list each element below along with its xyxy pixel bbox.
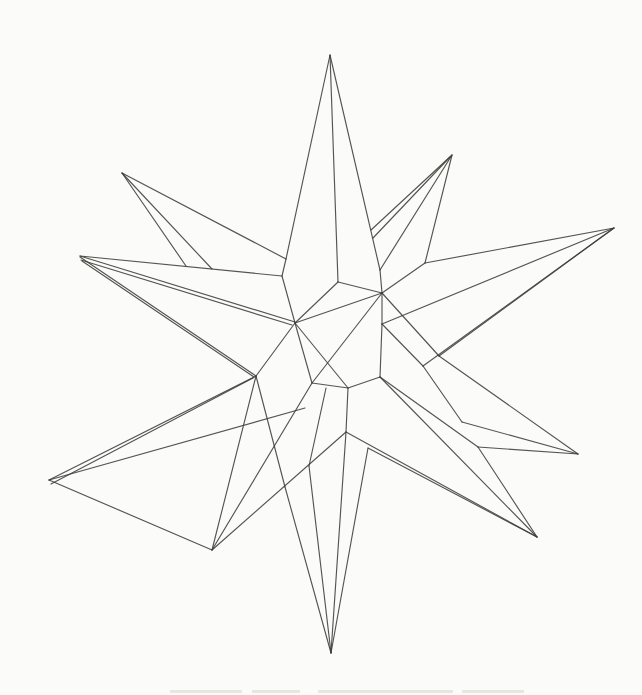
cropped-caption-fragment — [170, 690, 242, 693]
polyhedron-edge — [295, 323, 348, 388]
polyhedron-edge — [382, 293, 439, 356]
polyhedron-edge — [478, 447, 578, 454]
polyhedron-edge — [382, 228, 614, 324]
polyhedron-edge — [312, 293, 382, 383]
polyhedron-edge — [380, 377, 478, 447]
polyhedron-edge — [122, 173, 212, 269]
polyhedron-edge — [312, 383, 348, 388]
polyhedron-edge — [81, 260, 292, 325]
polyhedron-edge — [382, 263, 425, 293]
polyhedron-edge — [295, 293, 382, 323]
polyhedron-edge — [478, 447, 537, 537]
polyhedron-edge — [295, 323, 312, 383]
polyhedron-edge — [330, 55, 338, 282]
polyhedron-edge — [439, 356, 578, 454]
polyhedron-edge — [80, 257, 256, 376]
cropped-caption-fragment — [252, 690, 300, 693]
polyhedron-edge — [49, 408, 305, 480]
polyhedron-edge — [80, 256, 295, 322]
polyhedron-edge — [373, 157, 450, 238]
polyhedron-edge — [212, 376, 256, 550]
polyhedron-edge — [295, 282, 338, 323]
polyhedron-edge — [382, 324, 423, 366]
polyhedron-edge — [346, 388, 348, 432]
polyhedron-edge — [439, 228, 614, 356]
cropped-caption-fragment — [318, 690, 453, 693]
polyhedron-edge — [286, 55, 330, 259]
polyhedron-edge — [122, 173, 286, 259]
polyhedron-edge — [380, 324, 382, 377]
polyhedron-edge — [423, 366, 462, 422]
polyhedron-edge — [380, 270, 382, 293]
polyhedron-edge — [425, 155, 452, 263]
polyhedron-edge — [256, 323, 295, 376]
polyhedron-edge — [331, 432, 346, 653]
polyhedron-edge — [380, 155, 452, 270]
polyhedron-edge — [212, 383, 312, 550]
polyhedron-edge — [309, 388, 326, 466]
polyhedron-edge — [348, 377, 380, 388]
polyhedron-edge — [212, 432, 346, 550]
scanned-figure-page — [0, 0, 642, 695]
polyhedron-edge — [49, 480, 212, 550]
polyhedron-edge — [346, 432, 537, 537]
polyhedron-edge — [338, 282, 382, 293]
polyhedron-edge — [122, 173, 186, 266]
cropped-caption-fragment — [462, 690, 524, 693]
polyhedron-edge — [309, 466, 331, 653]
stellated-polyhedron-wireframe-figure — [0, 0, 642, 695]
polyhedron-edge — [49, 376, 256, 480]
polyhedron-edge — [282, 259, 286, 276]
polyhedron-edge — [425, 228, 614, 263]
polyhedron-edge — [82, 261, 254, 377]
polyhedron-edge — [282, 276, 295, 323]
polyhedron-edge — [380, 377, 537, 537]
polyhedron-edge — [285, 487, 331, 653]
polyhedron-edge — [368, 448, 537, 537]
polyhedron-edge — [331, 448, 368, 653]
